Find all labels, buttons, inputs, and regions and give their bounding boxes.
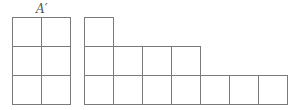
a-prime-cell (12, 46, 42, 76)
a-prime-cell (41, 75, 71, 105)
staircase-cell (84, 17, 114, 47)
staircase-cell (171, 75, 201, 105)
staircase-cell (200, 75, 230, 105)
staircase-cell (113, 46, 143, 76)
staircase-cell (142, 46, 172, 76)
diagram: A′ (0, 0, 292, 110)
staircase-cell (258, 75, 288, 105)
a-prime-cell (41, 17, 71, 47)
a-prime-cell (12, 17, 42, 47)
staircase-cell (142, 75, 172, 105)
shape-label-a-prime: A′ (36, 3, 47, 15)
staircase-cell (84, 46, 114, 76)
staircase-cell (171, 46, 201, 76)
staircase-cell (84, 75, 114, 105)
staircase-cell (113, 75, 143, 105)
a-prime-cell (12, 75, 42, 105)
a-prime-cell (41, 46, 71, 76)
staircase-cell (229, 75, 259, 105)
